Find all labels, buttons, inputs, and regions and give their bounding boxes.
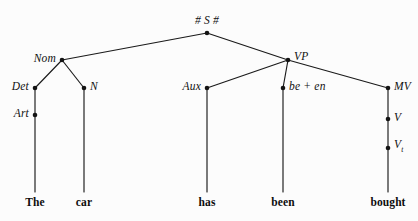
node-dot-layer — [33, 31, 391, 151]
tree-edge-Nom-to-Det — [35, 60, 62, 88]
node-label-Vt: Vt — [394, 138, 404, 153]
node-label-subscript: t — [401, 145, 403, 154]
tree-edge-Nom-to-N — [62, 60, 84, 88]
tree-edge-S-to-VP — [207, 33, 288, 60]
node-dot-S — [205, 31, 210, 36]
node-dot-VP — [286, 58, 291, 63]
node-dot-been — [281, 86, 286, 91]
node-dot-Det — [33, 86, 38, 91]
node-label-Art: Art — [14, 107, 29, 119]
terminal-word-bought: bought — [370, 196, 405, 208]
tree-edge-S-to-Nom — [62, 33, 207, 60]
terminal-word-has: has — [199, 196, 216, 208]
node-dot-Art — [33, 113, 38, 118]
node-dot-Vt — [386, 146, 391, 151]
node-dot-V — [386, 117, 391, 122]
node-label-V: V — [394, 111, 401, 123]
edge-layer — [35, 33, 388, 148]
node-dot-Nom — [60, 58, 65, 63]
terminal-word-been: been — [271, 196, 294, 208]
node-label-Aux: Aux — [183, 80, 201, 92]
node-label-VP: VP — [294, 50, 308, 62]
node-label-N: N — [90, 80, 98, 92]
terminal-word-the: The — [25, 196, 44, 208]
node-dot-Aux — [205, 86, 210, 91]
node-label-MV: MV — [394, 80, 411, 92]
tree-edge-VP-to-Aux — [207, 60, 288, 88]
node-label-S: # S # — [195, 14, 219, 26]
node-label-Det: Det — [12, 80, 29, 92]
terminal-line-layer — [35, 88, 388, 192]
tree-edge-VP-to-been — [283, 60, 288, 88]
syntax-tree-figure: # S #NomVPDetNAuxbe + enMVArtVVt Thecarh… — [0, 0, 418, 221]
node-dot-MV — [386, 86, 391, 91]
tree-graphics — [0, 0, 418, 221]
node-dot-N — [82, 86, 87, 91]
node-label-been: be + en — [289, 80, 326, 92]
node-label-Nom: Nom — [34, 52, 56, 64]
terminal-word-car: car — [76, 196, 92, 208]
